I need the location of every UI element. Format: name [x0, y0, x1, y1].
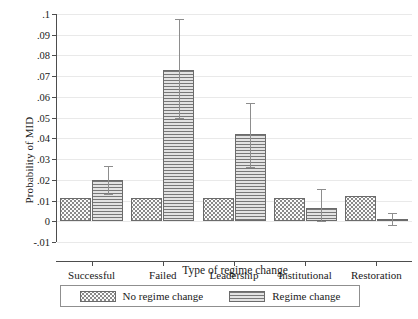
legend-label-no-regime-change: No regime change [123, 290, 204, 302]
error-bar-cap-lower [317, 221, 326, 222]
gridline [57, 14, 412, 15]
legend-label-regime-change: Regime change [272, 290, 340, 302]
error-bar-line [321, 189, 322, 221]
y-tick-mark [52, 118, 56, 119]
gridline [57, 76, 412, 77]
error-bar-cap-upper [104, 166, 113, 167]
legend-swatch-no-regime-change [80, 291, 116, 302]
y-tick-label: -.01 [10, 237, 50, 248]
error-bar-line [108, 166, 109, 194]
error-bar-cap-lower [246, 167, 255, 168]
y-tick-label: .06 [10, 91, 50, 102]
y-axis-line [56, 14, 57, 242]
bar-failed-no-regime-change [131, 198, 162, 221]
legend-item-no-regime-change: No regime change [80, 290, 204, 302]
y-tick-mark [52, 76, 56, 77]
y-tick-mark [52, 138, 56, 139]
y-tick-mark [52, 159, 56, 160]
y-tick-label: .07 [10, 71, 50, 82]
bar-chart: Probability of MID -.010.01.02.03.04.05.… [0, 0, 418, 319]
y-tick-mark [52, 35, 56, 36]
error-bar-line [179, 19, 180, 117]
error-bar-cap-lower [388, 225, 397, 226]
error-bar-cap-upper [246, 103, 255, 104]
y-tick-mark [52, 221, 56, 222]
gridline [57, 221, 412, 222]
error-bar-line [250, 103, 251, 167]
gridline [57, 35, 412, 36]
gridline [57, 97, 412, 98]
bar-restoration-no-regime-change [345, 196, 376, 221]
chart-legend: No regime change Regime change [60, 285, 360, 307]
y-tick-label: .05 [10, 112, 50, 123]
y-tick-label: .09 [10, 29, 50, 40]
legend-item-regime-change: Regime change [229, 290, 340, 302]
bar-institutional-no-regime-change [274, 198, 305, 221]
gridline [57, 118, 412, 119]
y-tick-mark [52, 97, 56, 98]
legend-swatch-regime-change [229, 291, 265, 302]
y-tick-mark [52, 55, 56, 56]
y-tick-label: .01 [10, 195, 50, 206]
x-axis-title: Type of regime change [56, 264, 414, 276]
gridline [57, 55, 412, 56]
y-tick-label: .04 [10, 133, 50, 144]
y-tick-label: .03 [10, 154, 50, 165]
bar-leadership-no-regime-change [203, 198, 234, 221]
error-bar-cap-upper [388, 213, 397, 214]
error-bar-cap-lower [175, 118, 184, 119]
error-bar-line [392, 213, 393, 226]
plot-area: -.010.01.02.03.04.05.06.07.08.09.1 Succe… [56, 14, 412, 242]
error-bar-cap-upper [175, 19, 184, 20]
y-tick-mark [52, 14, 56, 15]
gridline [57, 242, 412, 243]
y-tick-mark [52, 180, 56, 181]
y-tick-mark [52, 242, 56, 243]
error-bar-cap-upper [317, 189, 326, 190]
y-tick-label: .02 [10, 174, 50, 185]
bar-successful-no-regime-change [60, 198, 91, 221]
y-tick-label: .08 [10, 50, 50, 61]
y-tick-label: .1 [10, 9, 50, 20]
y-tick-label: 0 [10, 216, 50, 227]
error-bar-cap-lower [104, 194, 113, 195]
y-tick-mark [52, 201, 56, 202]
